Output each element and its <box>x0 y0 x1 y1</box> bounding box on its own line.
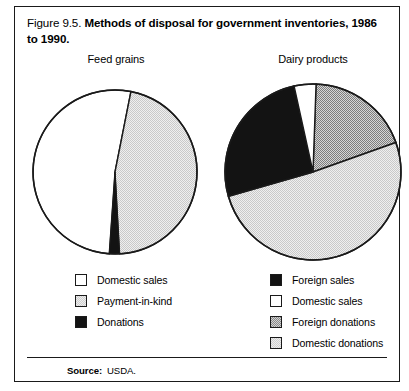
legend-label: Payment-in-kind <box>97 295 172 307</box>
source-value: USDA. <box>107 365 136 376</box>
legend-swatch-payment-in-kind <box>75 295 87 307</box>
pie-feed-grains-svg <box>27 69 207 269</box>
legend-swatch-domestic-donations <box>270 337 282 349</box>
legend-item: Domestic sales <box>75 269 172 290</box>
legend-swatch-domestic-sales <box>75 274 87 286</box>
pie-chart-feed-grains <box>27 69 207 269</box>
legend-item: Domestic donations <box>270 332 383 353</box>
legend-item: Foreign donations <box>270 311 383 332</box>
legend-label: Domestic donations <box>292 337 383 349</box>
pie-dairy-svg <box>209 69 405 269</box>
source-label: Source: <box>67 365 102 376</box>
pie-slice-payment-in-kind <box>115 92 197 254</box>
legend-label: Donations <box>97 316 144 328</box>
figure-number: Figure 9.5. <box>27 16 81 29</box>
legend-item: Foreign sales <box>270 269 383 290</box>
source-note: Source:USDA. <box>67 365 136 376</box>
legend-label: Foreign sales <box>292 274 354 286</box>
pie-chart-dairy-products <box>209 69 405 269</box>
legend-swatch-domestic-sales <box>270 295 282 307</box>
legend-feed-grains: Domestic sales Payment-in-kind Donations <box>75 269 172 332</box>
legend-swatch-donations <box>75 316 87 328</box>
legend-item: Payment-in-kind <box>75 290 172 311</box>
legend-dairy-products: Foreign sales Domestic sales Foreign don… <box>270 269 383 353</box>
legend-label: Domestic sales <box>292 295 362 307</box>
legend-label: Foreign donations <box>292 316 375 328</box>
source-divider <box>27 357 387 358</box>
legend-label: Domestic sales <box>97 274 167 286</box>
chart-title-dairy-products: Dairy products <box>233 53 393 65</box>
legend-swatch-foreign-sales <box>270 274 282 286</box>
figure-caption: Figure 9.5. Methods of disposal for gove… <box>27 15 389 46</box>
legend-item: Donations <box>75 311 172 332</box>
chart-title-feed-grains: Feed grains <box>41 53 191 65</box>
figure-frame: Figure 9.5. Methods of disposal for gove… <box>14 6 400 382</box>
legend-item: Domestic sales <box>270 290 383 311</box>
legend-swatch-foreign-donations <box>270 316 282 328</box>
